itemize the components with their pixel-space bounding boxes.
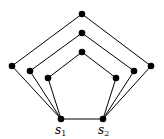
- node-top_mid: [79, 30, 86, 37]
- edge-left_mid-top_mid: [30, 33, 82, 71]
- node-left_inner: [45, 75, 52, 82]
- edge-top_inner-right_inner: [82, 52, 116, 78]
- node-s2: [100, 116, 107, 123]
- node-s1: [58, 116, 65, 123]
- node-top_outer: [79, 11, 86, 18]
- node-right_mid: [131, 68, 138, 75]
- node-right_inner: [113, 75, 120, 82]
- graph-nodes: [9, 11, 155, 123]
- edge-top_mid-right_mid: [82, 33, 134, 71]
- label-s2: s2: [98, 123, 109, 138]
- node-left_outer: [9, 63, 16, 70]
- edge-left_inner-top_inner: [48, 52, 82, 78]
- node-left_mid: [27, 68, 34, 75]
- edge-right_inner-s2: [103, 78, 116, 119]
- graph-diagram: s1 s2: [0, 0, 164, 139]
- edge-s1-left_inner: [48, 78, 61, 119]
- node-top_inner: [79, 49, 86, 56]
- node-right_outer: [148, 63, 155, 70]
- label-s1: s1: [55, 123, 66, 138]
